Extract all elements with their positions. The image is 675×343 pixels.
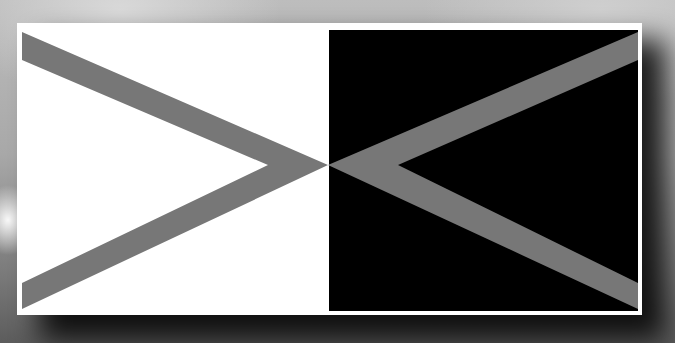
- illusion-figure: [0, 0, 675, 343]
